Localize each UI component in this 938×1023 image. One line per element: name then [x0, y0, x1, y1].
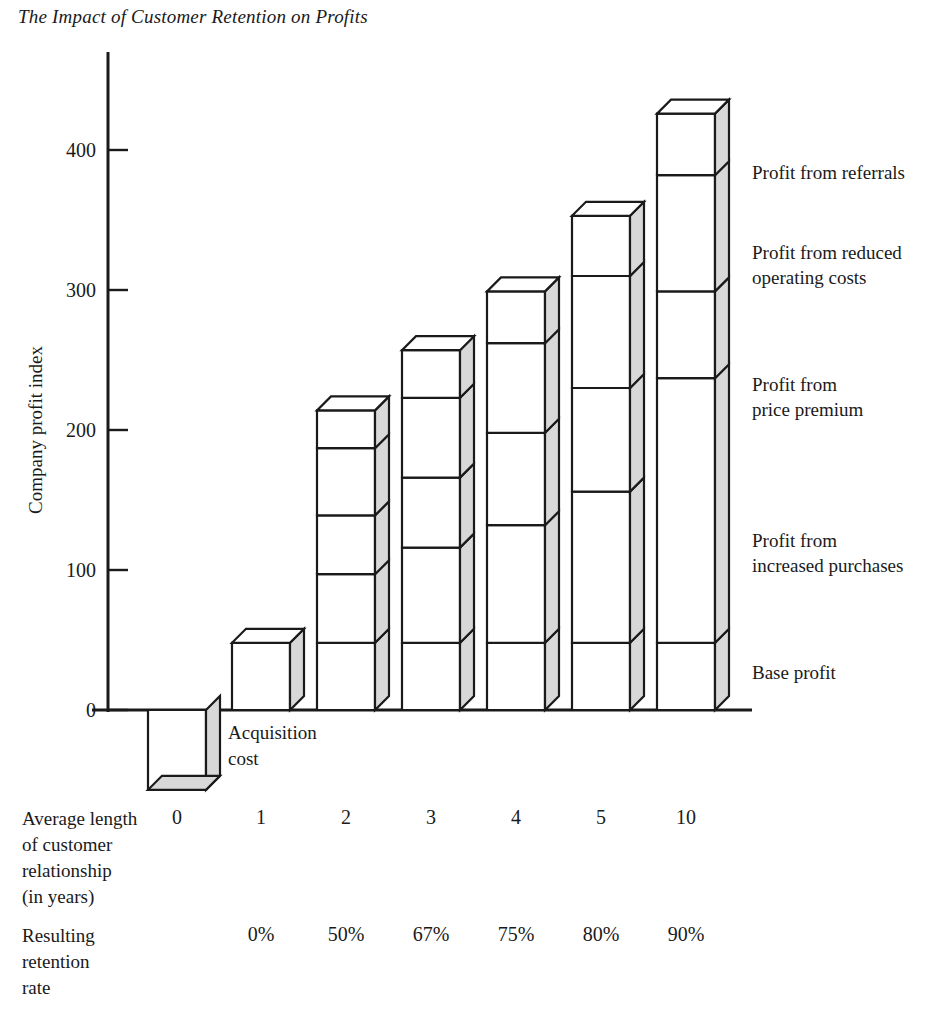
bar-segment-face: [657, 643, 715, 710]
category-label: 10: [656, 806, 716, 829]
retention-rate-label: 75%: [481, 923, 551, 946]
bar-segment-face: [657, 114, 715, 176]
bar-segment-side: [715, 161, 729, 291]
retention-rate-label: 50%: [311, 923, 381, 946]
y-axis-tick-label: 0: [86, 699, 96, 721]
y-axis-tick-label: 300: [66, 279, 96, 301]
category-label: 1: [231, 806, 291, 829]
bar-segment-side: [715, 364, 729, 643]
bar-bottom-face: [148, 776, 220, 790]
bar-segment-face: [487, 525, 545, 643]
bar-segment-face: [572, 388, 630, 492]
segment-label: Profit from price premium: [752, 372, 863, 422]
bar-segment-side: [460, 534, 474, 643]
bar-segment-face: [402, 398, 460, 478]
bar-segment-side: [630, 374, 644, 492]
bar-segment-face: [657, 291, 715, 378]
bar-segment-side: [545, 329, 559, 433]
chart-figure: The Impact of Customer Retention on Prof…: [0, 0, 938, 1023]
bar-segment-face: [317, 410, 375, 448]
bar-segment-face: [657, 378, 715, 643]
category-label: 0: [147, 806, 207, 829]
bar-segment-face: [487, 291, 545, 343]
bar-segment-face: [317, 643, 375, 710]
bar-segment-face: [402, 478, 460, 548]
bar-top-face: [232, 629, 304, 643]
y-axis-title: Company profit index: [25, 346, 46, 514]
bar-top-face: [317, 396, 389, 410]
bar-segment-side: [715, 277, 729, 378]
retention-rate-label: 80%: [566, 923, 636, 946]
category-label: 3: [401, 806, 461, 829]
retention-rate-label: 67%: [396, 923, 466, 946]
segment-label: Profit from referrals: [752, 160, 905, 185]
bar-segment-face: [572, 492, 630, 643]
bar-segment-face: [317, 448, 375, 515]
bar-top-face: [487, 277, 559, 291]
chart-canvas: 0100200300400 Company profit index: [0, 0, 938, 1023]
bar-top-face: [657, 100, 729, 114]
bar-segment-side: [460, 384, 474, 478]
x-axis-row1-title: Average length of customer relationship …: [22, 806, 137, 910]
segment-label: Base profit: [752, 660, 836, 685]
bar-segment-face: [317, 574, 375, 643]
category-label: 4: [486, 806, 546, 829]
bar-segment-face: [317, 515, 375, 574]
segment-label: Profit from increased purchases: [752, 528, 903, 578]
x-axis-row2-title: Resulting retention rate: [22, 923, 95, 1001]
bar-segment-face: [402, 643, 460, 710]
bar-segment-face: [487, 433, 545, 525]
y-axis-tick-label: 400: [66, 139, 96, 161]
bar-segment-face: [402, 548, 460, 643]
bar-segment-face: [572, 276, 630, 388]
y-axis-tick-label: 200: [66, 419, 96, 441]
bar-segment-side: [630, 478, 644, 643]
category-label: 5: [571, 806, 631, 829]
bar-segment-side: [545, 419, 559, 525]
bar-segment-face: [232, 643, 290, 710]
bar-segment-face: [657, 175, 715, 291]
acquisition-cost-annotation: Acquisition cost: [228, 720, 317, 772]
bar-segment-side: [545, 511, 559, 643]
retention-rate-label: 90%: [651, 923, 721, 946]
bar-top-face: [572, 202, 644, 216]
bar-segment-face: [572, 643, 630, 710]
bar-segment-face: [402, 350, 460, 398]
segment-label: Profit from reduced operating costs: [752, 240, 902, 290]
bar-segment-face: [572, 216, 630, 276]
bar-segment-side: [630, 262, 644, 388]
bar-segment-face: [487, 643, 545, 710]
category-label: 2: [316, 806, 376, 829]
y-axis-ticks: 0100200300400: [66, 139, 128, 721]
bar-segment-face: [487, 343, 545, 433]
y-axis-tick-label: 100: [66, 559, 96, 581]
bar-group: [148, 100, 729, 790]
retention-rate-label: 0%: [226, 923, 296, 946]
bar-top-face: [402, 336, 474, 350]
